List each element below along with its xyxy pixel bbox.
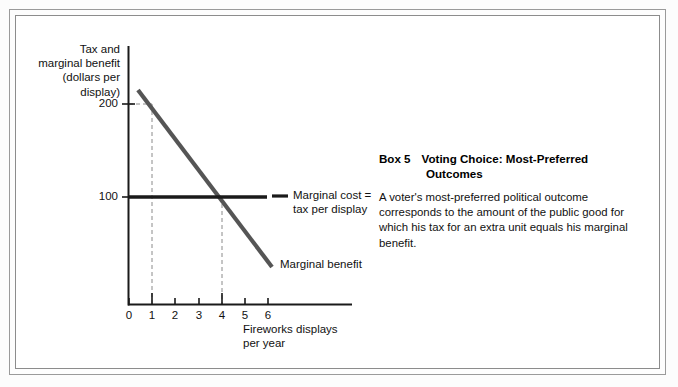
- caption-title-line1: Voting Choice: Most-Preferred: [422, 152, 589, 165]
- x-tick-label-3: 3: [191, 309, 207, 321]
- caption-block: Box 5Voting Choice: Most-Preferred Outco…: [379, 151, 641, 251]
- caption-title: Box 5Voting Choice: Most-Preferred Outco…: [379, 151, 641, 181]
- x-tick-label-4: 4: [214, 309, 230, 321]
- caption-body: A voter's most-preferred political outco…: [379, 190, 641, 251]
- x-tick-label-0: 0: [121, 309, 137, 321]
- figure-page: Tax and marginal benefit (dollars per di…: [0, 0, 678, 387]
- marginal-benefit-line: [138, 90, 272, 267]
- x-tick-label-1: 1: [144, 309, 160, 321]
- x-axis-label: Fireworks displays per year: [243, 322, 393, 350]
- x-tick-marks: [129, 293, 268, 305]
- y-tick-label-100: 100: [84, 190, 118, 202]
- x-tick-label-2: 2: [167, 309, 183, 321]
- y-tick-label-200: 200: [84, 97, 118, 109]
- y-axis-label: Tax and marginal benefit (dollars per di…: [12, 42, 120, 99]
- guide-lines: [129, 104, 222, 305]
- x-tick-label-6: 6: [260, 309, 276, 321]
- x-tick-label-5: 5: [237, 309, 253, 321]
- marginal-cost-label: Marginal cost = tax per display: [293, 189, 371, 216]
- marginal-benefit-label: Marginal benefit: [280, 258, 362, 272]
- caption-box-number: Box 5: [379, 152, 411, 165]
- caption-title-line2: Outcomes: [426, 166, 641, 181]
